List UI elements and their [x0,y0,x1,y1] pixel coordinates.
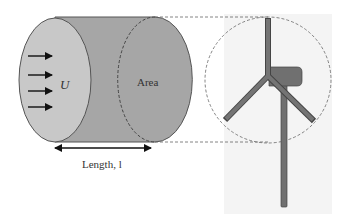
wind-turbine-diagram: U Area Length, l [0,0,346,214]
air-cylinder-face [19,18,91,142]
turbine-tower [281,84,287,207]
turbine-background-panel [224,14,332,214]
velocity-label: U [60,77,71,92]
area-label: Area [137,76,158,88]
length-label: Length, l [82,158,122,170]
